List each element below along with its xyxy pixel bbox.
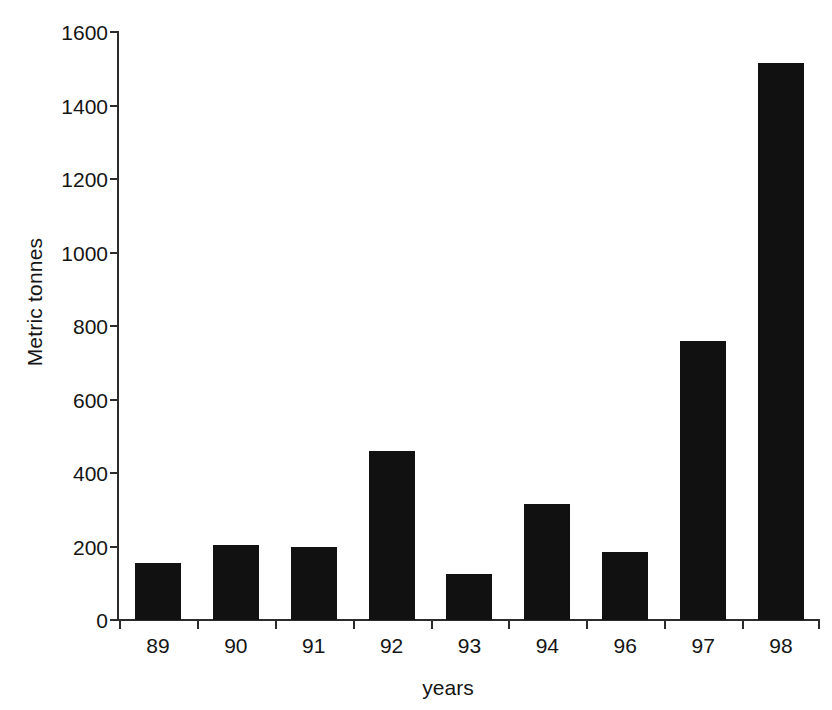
bar-chart: Metric tonnes 02004006008001000120014001… [0,0,832,710]
y-tick-mark [110,178,119,180]
bar-group: 91 [275,32,353,620]
bar[interactable] [291,547,337,621]
x-tick-label: 96 [614,635,637,656]
x-tick-mark [508,620,510,629]
y-tick-mark [110,31,119,33]
bar-group: 93 [431,32,509,620]
x-tick-label: 91 [302,635,325,656]
bar[interactable] [758,63,804,620]
y-tick-mark [110,252,119,254]
bar-group: 96 [586,32,664,620]
bar[interactable] [213,545,259,620]
plot-area: 0200400600800100012001400160089909192939… [119,32,820,620]
bar[interactable] [680,341,726,620]
x-tick-label: 98 [769,635,792,656]
x-tick-mark [275,620,277,629]
x-tick-mark [818,620,820,629]
x-tick-mark [431,620,433,629]
x-tick-label: 93 [458,635,481,656]
x-tick-label: 89 [146,635,169,656]
bar-group: 90 [197,32,275,620]
x-axis-title: years [0,676,832,700]
x-tick-mark [353,620,355,629]
bar[interactable] [135,563,181,620]
bar-group: 98 [742,32,820,620]
x-tick-mark [664,620,666,629]
y-tick-mark [110,399,119,401]
bar[interactable] [602,552,648,620]
x-tick-mark [586,620,588,629]
bar-group: 94 [508,32,586,620]
x-tick-label: 97 [691,635,714,656]
bar-group: 97 [664,32,742,620]
x-tick-mark [119,620,121,629]
y-tick-mark [110,325,119,327]
x-tick-label: 94 [536,635,559,656]
bar[interactable] [524,504,570,620]
x-axis-title-text: years [422,676,473,700]
y-tick-mark [110,546,119,548]
y-axis-title: Metric tonnes [23,192,47,412]
bar[interactable] [446,574,492,620]
x-tick-label: 90 [224,635,247,656]
bar[interactable] [369,451,415,620]
y-tick-mark [110,472,119,474]
bar-group: 92 [353,32,431,620]
x-tick-mark [742,620,744,629]
x-tick-label: 92 [380,635,403,656]
bar-group: 89 [119,32,197,620]
y-tick-mark [110,105,119,107]
y-tick-mark [110,619,119,621]
x-tick-mark [197,620,199,629]
